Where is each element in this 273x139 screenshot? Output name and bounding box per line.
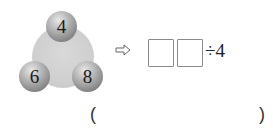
right-arrow-icon bbox=[115, 44, 131, 56]
ball-value: 6 bbox=[30, 66, 40, 88]
answer-box-2[interactable] bbox=[177, 39, 203, 67]
number-ball-top: 4 bbox=[46, 11, 77, 42]
number-ball-right: 8 bbox=[72, 61, 103, 92]
answer-close-paren: ) bbox=[259, 104, 265, 125]
number-ball-left: 6 bbox=[19, 61, 50, 92]
ball-value: 4 bbox=[57, 16, 67, 38]
ball-value: 8 bbox=[83, 66, 93, 88]
divide-expression: ÷4 bbox=[205, 40, 225, 62]
answer-open-paren: ( bbox=[90, 104, 96, 125]
answer-box-1[interactable] bbox=[148, 39, 174, 67]
